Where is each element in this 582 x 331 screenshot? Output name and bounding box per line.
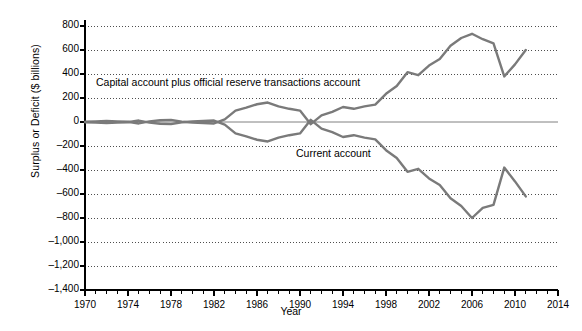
- y-tick-label: 200: [23, 91, 79, 102]
- x-tick-label: 2006: [452, 299, 492, 310]
- x-tick-label: 1990: [280, 299, 320, 310]
- y-tick-label: 400: [23, 67, 79, 78]
- x-tick-label: 1986: [237, 299, 277, 310]
- y-tick-label: –1,000: [23, 235, 79, 246]
- y-tick-label: –1,200: [23, 259, 79, 270]
- series-label-capital-account: Capital account plus official reserve tr…: [96, 76, 360, 88]
- x-tick-label: 1978: [151, 299, 191, 310]
- y-tick-label: –200: [23, 139, 79, 150]
- series-label-current-account: Current account: [296, 147, 371, 159]
- x-tick-label: 2002: [409, 299, 449, 310]
- y-tick-label: 800: [23, 19, 79, 30]
- y-tick-label: –400: [23, 163, 79, 174]
- y-tick-label: –800: [23, 211, 79, 222]
- y-tick-label: 0: [23, 115, 79, 126]
- y-tick-label: –1,400: [23, 283, 79, 294]
- series-line-current-account: [85, 120, 526, 218]
- x-tick-label: 2010: [495, 299, 535, 310]
- y-tick-label: 600: [23, 43, 79, 54]
- x-tick-label: 2014: [538, 299, 578, 310]
- plot-area: [0, 0, 582, 331]
- balance-of-payments-chart: Surplus or Deficit ($ billions) Year Cap…: [0, 0, 582, 331]
- x-tick-label: 1974: [108, 299, 148, 310]
- x-tick-label: 1982: [194, 299, 234, 310]
- x-tick-label: 1970: [65, 299, 105, 310]
- x-tick-label: 1998: [366, 299, 406, 310]
- x-tick-label: 1994: [323, 299, 363, 310]
- y-tick-label: –600: [23, 187, 79, 198]
